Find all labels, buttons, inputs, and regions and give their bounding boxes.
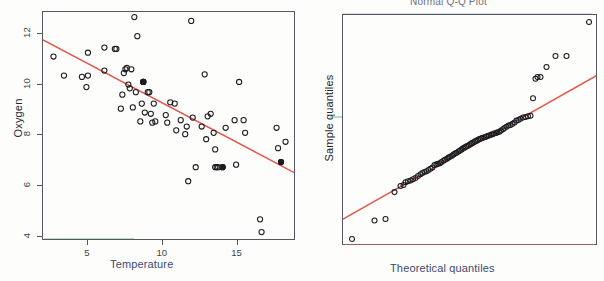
data-point xyxy=(184,124,189,129)
data-point xyxy=(142,110,147,115)
data-point xyxy=(133,90,138,95)
y-tick-label: 4 xyxy=(21,228,32,244)
data-point xyxy=(163,112,168,117)
x-tick-label: 5 xyxy=(77,247,97,258)
data-point xyxy=(257,217,262,222)
data-point xyxy=(204,137,209,142)
data-point xyxy=(372,218,377,223)
data-point xyxy=(587,20,592,25)
data-point xyxy=(51,54,56,59)
data-point xyxy=(139,101,144,106)
scatter-plot-area xyxy=(42,11,295,240)
data-point xyxy=(183,132,188,137)
regression-line xyxy=(43,40,294,174)
y-tick-label: 6 xyxy=(21,177,32,193)
y-tick-label: 12 xyxy=(21,24,32,40)
data-point xyxy=(135,34,140,39)
y-tick-mark xyxy=(37,134,42,135)
data-point xyxy=(199,124,204,129)
data-point xyxy=(259,229,264,234)
scatter-panel: 4681012 51015 Oxygen Temperature xyxy=(0,0,302,281)
scatter-x-axis-title: Temperature xyxy=(110,258,173,270)
scatter-y-axis-title: Oxygen xyxy=(12,88,24,148)
data-point xyxy=(186,179,191,184)
data-point xyxy=(151,101,156,106)
data-point xyxy=(85,73,90,78)
x-tick-mark xyxy=(87,240,88,245)
y-tick-mark xyxy=(37,185,42,186)
qq-plot-area xyxy=(342,14,597,245)
data-point xyxy=(531,96,536,101)
x-tick-label: 10 xyxy=(152,247,172,258)
data-point xyxy=(120,92,125,97)
data-point xyxy=(174,128,179,133)
data-point-overplotted xyxy=(278,160,283,165)
data-point xyxy=(283,139,288,144)
data-point xyxy=(383,216,388,221)
data-point xyxy=(350,236,355,241)
data-point xyxy=(211,130,216,135)
x-tick-mark xyxy=(237,240,238,245)
figure-root: 4681012 51015 Oxygen Temperature Normal … xyxy=(0,0,604,281)
data-point xyxy=(243,130,248,135)
data-point xyxy=(274,125,279,130)
data-point xyxy=(241,118,246,123)
scatter-points-layer xyxy=(43,12,294,239)
data-point-overplotted xyxy=(141,79,146,84)
data-point xyxy=(165,120,170,125)
y-tick-mark xyxy=(37,84,42,85)
data-point xyxy=(275,146,280,151)
data-point xyxy=(237,79,242,84)
qq-panel: Normal Q-Q Plot -3-2-101234 -2-1012 Samp… xyxy=(302,0,604,281)
data-point xyxy=(148,111,153,116)
data-point xyxy=(79,74,84,79)
data-point xyxy=(85,50,90,55)
data-point-overplotted xyxy=(220,165,225,170)
y-tick-mark xyxy=(37,33,42,34)
qq-plot-title: Normal Q-Q Plot xyxy=(410,0,487,7)
data-point xyxy=(202,72,207,77)
data-point xyxy=(61,73,66,78)
data-point xyxy=(138,119,143,124)
data-point xyxy=(232,118,237,123)
x-tick-mark xyxy=(162,240,163,245)
data-point xyxy=(102,45,107,50)
data-point xyxy=(189,18,194,23)
data-point xyxy=(213,147,218,152)
y-tick-mark xyxy=(37,236,42,237)
data-point xyxy=(234,162,239,167)
data-point xyxy=(564,53,569,58)
data-point xyxy=(544,65,549,70)
data-point xyxy=(178,118,183,123)
data-point xyxy=(130,105,135,110)
data-point xyxy=(132,14,137,19)
data-point xyxy=(553,53,558,58)
data-point xyxy=(193,165,198,170)
data-point xyxy=(84,84,89,89)
data-point xyxy=(223,125,228,130)
data-point xyxy=(118,106,123,111)
x-tick-label: 15 xyxy=(227,247,247,258)
qq-points-layer xyxy=(343,15,596,244)
qq-y-axis-title: Sample quantiles xyxy=(323,63,335,173)
qq-x-axis-title: Theoretical quantiles xyxy=(390,262,495,274)
